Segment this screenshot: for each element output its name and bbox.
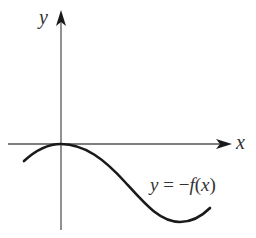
curve-label: y = −f(x) <box>148 174 216 196</box>
graph-figure: y x y = −f(x) <box>0 0 256 238</box>
x-axis-label: x <box>235 131 245 153</box>
y-axis-label: y <box>37 6 48 29</box>
y-axis <box>56 10 66 230</box>
